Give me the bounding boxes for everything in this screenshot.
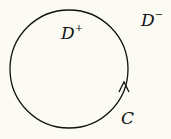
region-d-minus-label: D−	[141, 12, 163, 29]
curve-c-label: C	[121, 110, 134, 127]
region-d-plus-label: D+	[61, 25, 83, 42]
